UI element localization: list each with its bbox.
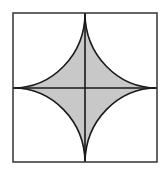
geometry-figure xyxy=(0,0,163,172)
